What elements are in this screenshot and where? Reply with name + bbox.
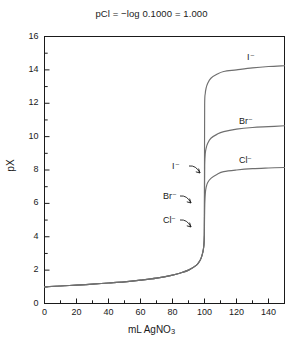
plot-frame (45, 37, 285, 304)
y-tick-label: 10 (15, 131, 39, 141)
data-curves (45, 66, 285, 287)
plot-area (0, 0, 303, 346)
equivalence-label-Br−: Br⁻ (163, 191, 177, 201)
y-tick-label: 16 (15, 31, 39, 41)
equivalence-label-I−: I⁻ (172, 161, 180, 171)
x-tick-label: 0 (32, 307, 58, 317)
y-axis-title: pX (5, 146, 16, 186)
equivalence-label-Cl−: Cl⁻ (163, 215, 177, 225)
y-tick-label: 14 (15, 64, 39, 74)
curve-Cl− (45, 168, 285, 287)
chart-figure: pCl = −log 0.1000 = 1.000 0246810121416 … (0, 0, 303, 346)
axis-ticks (45, 53, 269, 303)
y-tick-label: 4 (15, 231, 39, 241)
curve-I− (45, 66, 285, 287)
curve-end-label-I−: I⁻ (247, 52, 255, 62)
x-tick-label: 80 (160, 307, 186, 317)
curve-Br− (45, 126, 285, 287)
x-tick-label: 120 (224, 307, 250, 317)
curve-end-label-Cl−: Cl⁻ (239, 155, 253, 165)
curve-end-label-Br−: Br⁻ (239, 116, 253, 126)
y-tick-label: 6 (15, 197, 39, 207)
x-tick-label: 60 (128, 307, 154, 317)
y-tick-label: 12 (15, 97, 39, 107)
y-tick-label: 8 (15, 164, 39, 174)
x-tick-label: 40 (96, 307, 122, 317)
x-tick-label: 100 (192, 307, 218, 317)
annotation-arrows (180, 166, 200, 227)
x-tick-label: 140 (256, 307, 282, 317)
x-axis-title: mL AgNO3 (0, 324, 303, 336)
y-tick-label: 2 (15, 264, 39, 274)
x-axis-title-base: mL AgNO (128, 324, 171, 335)
x-tick-label: 20 (64, 307, 90, 317)
x-axis-title-subscript: 3 (171, 327, 175, 336)
